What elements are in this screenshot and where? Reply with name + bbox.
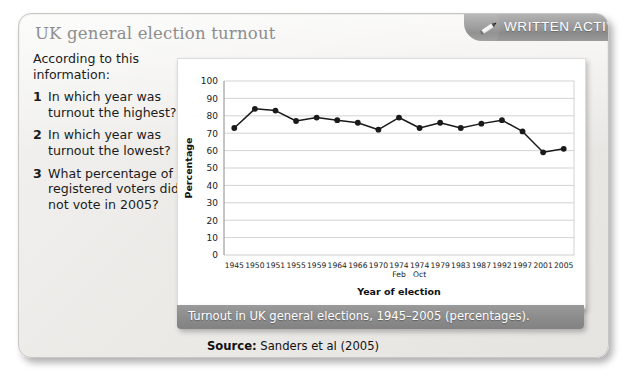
questions-intro: According to this information: bbox=[33, 51, 185, 82]
question-item: 1 In which year was turnout the highest? bbox=[33, 89, 185, 120]
svg-text:1979: 1979 bbox=[431, 261, 450, 270]
svg-text:30: 30 bbox=[207, 198, 219, 208]
svg-text:1964: 1964 bbox=[328, 261, 347, 270]
svg-text:1959: 1959 bbox=[307, 261, 326, 270]
chart-x-axis-title: Year of election bbox=[356, 286, 441, 297]
svg-text:80: 80 bbox=[207, 111, 219, 121]
chart-gridlines bbox=[224, 81, 574, 255]
svg-text:100: 100 bbox=[201, 76, 218, 86]
questions-list: According to this information: 1 In whic… bbox=[33, 51, 185, 219]
chart-panel: 0102030405060708090100 19451950195119551… bbox=[177, 58, 586, 309]
svg-text:70: 70 bbox=[207, 129, 219, 139]
question-text: What percentage of registered voters did… bbox=[48, 166, 185, 213]
question-text: In which year was turnout the highest? bbox=[48, 89, 185, 120]
svg-text:50: 50 bbox=[207, 163, 219, 173]
svg-text:1974: 1974 bbox=[389, 261, 408, 270]
svg-text:Feb: Feb bbox=[392, 270, 406, 279]
written-activity-banner: WRITTEN ACTIVITY bbox=[464, 14, 609, 41]
chart-xtick-labels: 194519501951195519591964196619701974Feb1… bbox=[225, 261, 574, 279]
svg-text:1997: 1997 bbox=[513, 261, 532, 270]
svg-text:1970: 1970 bbox=[369, 261, 388, 270]
svg-text:1951: 1951 bbox=[266, 261, 285, 270]
svg-text:60: 60 bbox=[207, 146, 219, 156]
svg-text:Oct: Oct bbox=[413, 270, 426, 279]
svg-text:1966: 1966 bbox=[348, 261, 367, 270]
question-number: 2 bbox=[33, 127, 48, 158]
svg-text:1987: 1987 bbox=[472, 261, 491, 270]
question-item: 3 What percentage of registered voters d… bbox=[33, 166, 185, 213]
question-number: 1 bbox=[33, 89, 48, 120]
svg-text:2005: 2005 bbox=[554, 261, 573, 270]
svg-text:1955: 1955 bbox=[286, 261, 305, 270]
svg-text:20: 20 bbox=[207, 216, 219, 226]
question-text: In which year was turnout the lowest? bbox=[48, 127, 185, 158]
svg-text:90: 90 bbox=[207, 94, 219, 104]
source-text: Sanders et al (2005) bbox=[260, 339, 379, 353]
question-number: 3 bbox=[33, 166, 48, 213]
activity-banner-label: WRITTEN ACTIVITY bbox=[504, 19, 609, 34]
screenshot-root: UK general election turnout WRITTEN ACTI… bbox=[0, 0, 627, 382]
svg-text:1974: 1974 bbox=[410, 261, 429, 270]
question-item: 2 In which year was turnout the lowest? bbox=[33, 127, 185, 158]
svg-text:1983: 1983 bbox=[451, 261, 470, 270]
svg-text:1945: 1945 bbox=[225, 261, 244, 270]
page-title: UK general election turnout bbox=[35, 24, 276, 43]
svg-text:10: 10 bbox=[207, 233, 219, 243]
chart-y-axis-title: Percentage bbox=[183, 137, 194, 198]
turnout-line-chart: 0102030405060708090100 19451950195119551… bbox=[178, 59, 585, 308]
chart-caption-bar: Turnout in UK general elections, 1945–20… bbox=[177, 305, 584, 329]
chart-caption-text: Turnout in UK general elections, 1945–20… bbox=[188, 309, 530, 323]
svg-text:2001: 2001 bbox=[533, 261, 552, 270]
svg-text:40: 40 bbox=[207, 181, 219, 191]
svg-text:1950: 1950 bbox=[245, 261, 264, 270]
pencil-icon bbox=[478, 18, 500, 38]
svg-text:1992: 1992 bbox=[492, 261, 511, 270]
source-line: Source: Sanders et al (2005) bbox=[207, 339, 379, 353]
source-label: Source: bbox=[207, 339, 257, 353]
svg-text:0: 0 bbox=[212, 250, 218, 260]
activity-card: UK general election turnout WRITTEN ACTI… bbox=[18, 13, 609, 358]
chart-ytick-labels: 0102030405060708090100 bbox=[201, 76, 218, 260]
